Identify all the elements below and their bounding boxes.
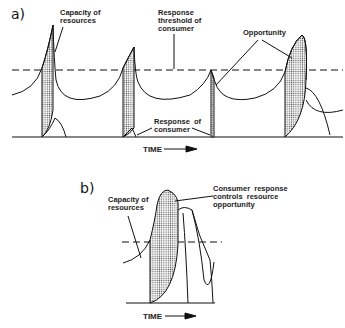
response-label: Response of consumer	[154, 118, 201, 134]
opportunity-area-3	[211, 70, 214, 137]
opportunity-area-1	[42, 25, 53, 137]
panel-a-label: a)	[11, 6, 25, 22]
callout-capacity-a	[55, 27, 63, 52]
threshold-label: Response threshold of consumer	[158, 9, 201, 33]
diagram-canvas	[0, 0, 345, 328]
capacity-label-b: Capacity of resources	[108, 196, 148, 212]
opportunity-area-4	[285, 35, 307, 137]
capacity-decay-a	[306, 88, 330, 135]
time-arrow-head-b	[185, 313, 196, 319]
capacity-label-a: Capacity of resources	[60, 9, 100, 25]
callout-consumer-b	[175, 196, 213, 201]
callout-capacity-b	[128, 216, 141, 258]
consumer-response-label: Consumer response controls resource oppo…	[213, 185, 288, 209]
callout-opportunity-1	[216, 40, 258, 85]
time-arrow-head	[186, 146, 197, 152]
capacity-vertical-b	[183, 213, 188, 303]
time-label-b: TIME	[143, 312, 162, 321]
panel-b-label: b)	[80, 180, 94, 196]
callout-opportunity-2	[262, 40, 292, 58]
opportunity-area-2	[123, 47, 134, 137]
opportunity-area-b	[150, 190, 178, 303]
capacity-tail-a	[306, 100, 343, 112]
opportunity-label: Opportunity	[243, 29, 286, 37]
callout-response-1	[137, 128, 152, 135]
time-label-a: TIME	[143, 145, 162, 154]
